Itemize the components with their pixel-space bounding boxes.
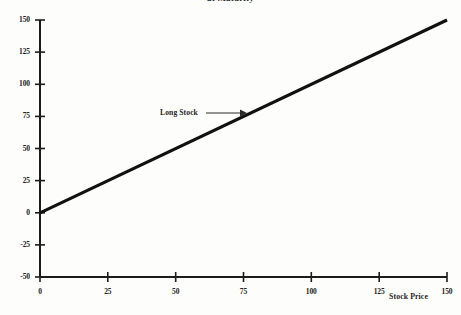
ytick-label-75: 75: [4, 112, 30, 120]
payoff-plot: [0, 0, 461, 315]
annotation-label-long-stock: Long Stock: [160, 108, 198, 117]
ytick-label-0: 0: [4, 209, 30, 217]
x-axis-title: Stock Price: [389, 292, 428, 301]
xtick-label-100: 100: [299, 288, 323, 296]
chart-canvas: at Maturity: [0, 0, 461, 315]
xtick-label-50: 50: [164, 288, 188, 296]
annotation-arrow: [206, 109, 247, 116]
ytick-label-25: 25: [4, 177, 30, 185]
ytick-label-n25: -25: [4, 241, 30, 249]
ytick-label-125: 125: [4, 48, 30, 56]
ytick-label-150: 150: [4, 16, 30, 24]
xtick-label-150: 150: [435, 288, 459, 296]
xtick-label-0: 0: [28, 288, 52, 296]
series-long-stock: [40, 20, 447, 213]
xtick-label-125: 125: [367, 288, 391, 296]
ytick-label-n50: -50: [4, 273, 30, 281]
xtick-label-25: 25: [96, 288, 120, 296]
ytick-label-50: 50: [4, 145, 30, 153]
xtick-label-75: 75: [232, 288, 256, 296]
ytick-label-100: 100: [4, 80, 30, 88]
